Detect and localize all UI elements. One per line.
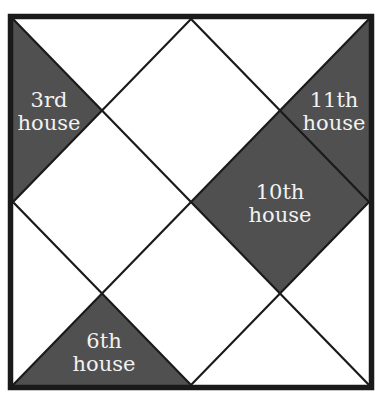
house-3rd-line2: house	[18, 111, 81, 135]
house-11th-line1: 11th	[310, 88, 359, 112]
house-11th-label: 11th house	[303, 88, 366, 135]
horoscope-chart: 3rd house 11th house 10th house 6th hous…	[0, 0, 386, 396]
house-6th-line1: 6th	[86, 329, 121, 353]
house-6th-line2: house	[73, 352, 136, 376]
house-10th-line1: 10th	[256, 180, 305, 204]
house-10th-label: 10th house	[249, 180, 312, 227]
house-11th-line2: house	[303, 111, 366, 135]
house-3rd-line1: 3rd	[31, 88, 68, 112]
house-10th-line2: house	[249, 203, 312, 227]
